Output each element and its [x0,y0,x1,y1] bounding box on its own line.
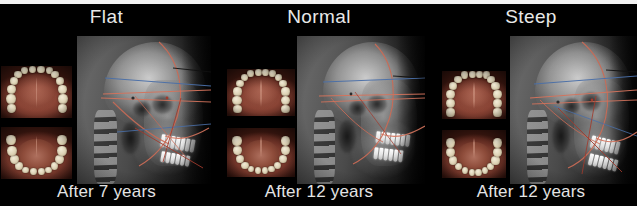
cephalogram-normal [297,36,425,184]
intraoral-lower-steep [442,130,506,178]
panel-flat: Flat [0,4,213,206]
cephalometric-tracing-normal [297,36,425,184]
photo-vignette [227,128,295,177]
figure-board: Flat [0,4,637,206]
panel-steep: Steep [425,4,637,206]
cephalogram-steep [510,36,637,184]
cephalogram-flat [77,36,211,184]
intraoral-upper-normal [227,69,295,116]
figure-bottom-border [0,206,637,210]
panel-normal: Normal [213,4,425,206]
panel-title-steep: Steep [425,6,637,28]
intraoral-upper-flat [1,66,72,118]
figure-root: Flat [0,0,637,210]
panel-caption-normal: After 12 years [213,182,425,202]
photo-vignette [227,69,295,116]
cephalometric-tracing-steep [510,36,637,184]
cephalometric-tracing-flat [77,36,211,184]
intraoral-lower-flat [1,127,72,179]
photo-vignette [1,127,72,179]
panel-title-normal: Normal [213,6,425,28]
intraoral-upper-steep [442,71,506,119]
panel-caption-steep: After 12 years [425,182,637,202]
photo-vignette [1,66,72,118]
photo-vignette [442,130,506,178]
photo-vignette [442,71,506,119]
panel-title-flat: Flat [0,6,213,28]
intraoral-lower-normal [227,128,295,177]
panel-caption-flat: After 7 years [0,182,213,202]
